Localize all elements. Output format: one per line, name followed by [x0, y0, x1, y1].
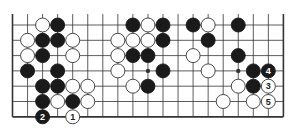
black-stone [36, 49, 50, 63]
white-stone [66, 49, 80, 63]
black-stone-2: 2 [36, 110, 50, 124]
white-stone [216, 95, 230, 109]
black-stone [246, 64, 260, 78]
black-stone [231, 49, 245, 63]
move-number: 2 [40, 112, 45, 122]
black-stone [156, 33, 170, 47]
white-stone [111, 64, 125, 78]
black-stone [126, 49, 140, 63]
white-stone [66, 79, 80, 93]
black-stone [156, 18, 170, 32]
white-stone-1: 1 [66, 110, 80, 124]
black-stone [21, 64, 35, 78]
white-stone [201, 18, 215, 32]
black-stone [51, 79, 65, 93]
white-stone [66, 33, 80, 47]
white-stone [186, 49, 200, 63]
black-stone [231, 18, 245, 32]
white-stone [111, 33, 125, 47]
black-stone [36, 33, 50, 47]
black-stone [36, 79, 50, 93]
black-stone [201, 33, 215, 47]
white-stone [81, 95, 95, 109]
white-stone [141, 18, 155, 32]
black-stone-4: 4 [261, 64, 275, 78]
white-stone [231, 79, 245, 93]
white-stone-5: 5 [261, 95, 275, 109]
white-stone [201, 64, 215, 78]
white-stone [246, 95, 260, 109]
black-stone [141, 79, 155, 93]
go-board-diagram: 43521 [0, 0, 295, 133]
white-stone [36, 18, 50, 32]
black-stone [156, 64, 170, 78]
white-stone [51, 95, 65, 109]
white-stone [126, 79, 140, 93]
star-point [146, 69, 150, 73]
black-stone [66, 95, 80, 109]
white-stone [21, 33, 35, 47]
move-number: 3 [266, 81, 271, 91]
white-stone [111, 49, 125, 63]
black-stone [186, 18, 200, 32]
white-stone-3: 3 [261, 79, 275, 93]
black-stone [141, 49, 155, 63]
black-stone [126, 18, 140, 32]
star-point [236, 69, 240, 73]
white-stone [21, 49, 35, 63]
move-number: 4 [266, 66, 271, 76]
black-stone [51, 64, 65, 78]
move-number: 1 [70, 112, 75, 122]
black-stone [51, 18, 65, 32]
black-stone [36, 95, 50, 109]
white-stone [126, 33, 140, 47]
move-number: 5 [266, 97, 271, 107]
white-stone [81, 79, 95, 93]
black-stone [246, 79, 260, 93]
black-stone [51, 33, 65, 47]
white-stone [141, 33, 155, 47]
